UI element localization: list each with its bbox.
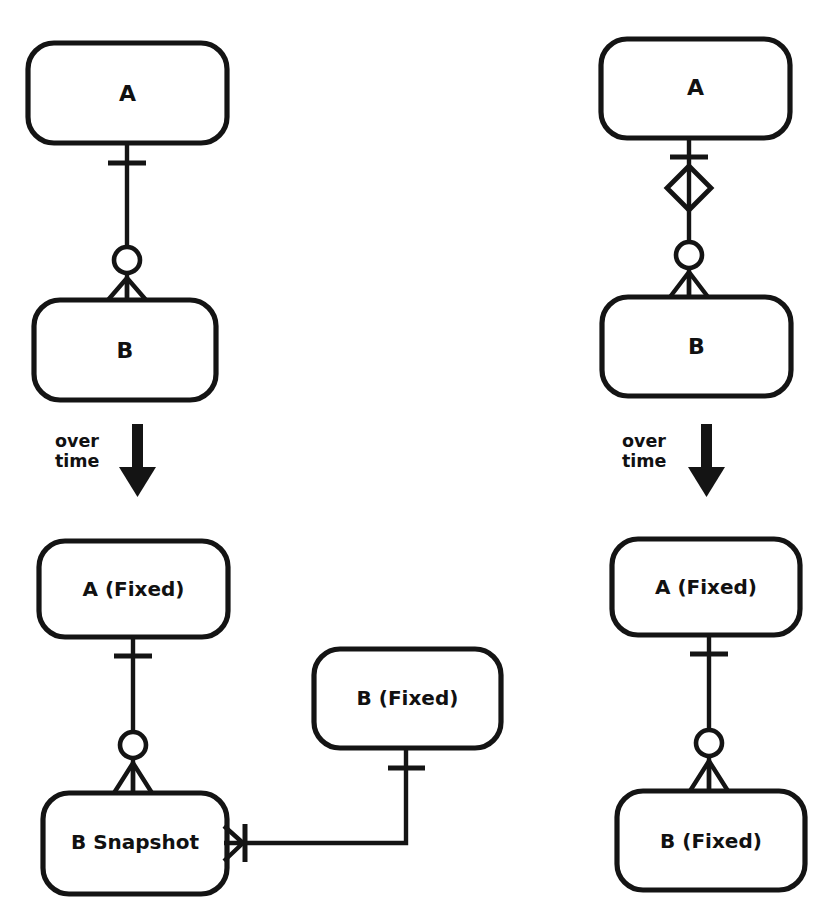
entity-right-after-a-fixed[interactable]: A (Fixed) (612, 539, 800, 635)
cardinality-zero-ring-icon (120, 732, 146, 758)
relationship-right-after-a-b[interactable] (690, 635, 728, 791)
crow-foot-icon (114, 763, 152, 793)
entity-left-after-a-fixed[interactable]: A (Fixed) (39, 541, 228, 637)
entity-label: B (117, 338, 134, 363)
right-after-group: A (Fixed) B (Fixed) (612, 539, 805, 890)
relationship-line-elbow (240, 748, 406, 843)
entity-left-after-b-snapshot[interactable]: B Snapshot (43, 793, 227, 894)
crow-foot-icon (224, 826, 243, 861)
entity-label: A (Fixed) (82, 577, 184, 601)
entity-label: A (Fixed) (655, 575, 757, 599)
entity-left-before-a[interactable]: A (28, 43, 227, 143)
over-time-label-line2: time (622, 451, 667, 471)
diagram-canvas: A B over time A (Fixed) (0, 0, 826, 914)
entity-right-after-b-fixed[interactable]: B (Fixed) (617, 791, 805, 890)
right-before-group: A B (601, 39, 791, 396)
cardinality-zero-ring-icon (676, 242, 702, 268)
entity-right-before-b[interactable]: B (602, 297, 791, 396)
entity-label: A (119, 81, 136, 106)
down-arrow-icon (119, 424, 156, 497)
relationship-left-before-a-b[interactable] (108, 143, 146, 300)
over-time-label-line2: time (55, 451, 100, 471)
er-diagram: A B over time A (Fixed) (0, 0, 826, 914)
entity-label: A (687, 75, 704, 100)
crow-foot-icon (670, 272, 708, 297)
cardinality-zero-ring-icon (114, 247, 140, 273)
cardinality-zero-ring-icon (696, 730, 722, 756)
relationship-right-before-a-b[interactable] (667, 138, 711, 297)
entity-label: B (Fixed) (357, 686, 459, 710)
entity-left-after-b-fixed[interactable]: B (Fixed) (314, 649, 501, 748)
over-time-label-line1: over (622, 431, 666, 451)
right-over-time-transition: over time (622, 424, 725, 497)
entity-right-before-a[interactable]: A (601, 39, 790, 138)
crow-foot-icon (690, 761, 728, 791)
relationship-left-after-bfixed-snapshot[interactable] (224, 748, 425, 862)
left-over-time-transition: over time (55, 424, 156, 497)
entity-label: B (688, 334, 705, 359)
entity-label: B Snapshot (71, 830, 200, 854)
entity-label: B (Fixed) (660, 829, 762, 853)
down-arrow-icon (688, 424, 725, 497)
left-before-group: A B (28, 43, 227, 400)
relationship-left-after-a-snapshot[interactable] (114, 637, 152, 793)
entity-left-before-b[interactable]: B (34, 300, 216, 400)
crow-foot-icon (108, 278, 146, 300)
over-time-label-line1: over (55, 431, 99, 451)
left-after-group: A (Fixed) B Snapshot B (Fixed) (39, 541, 501, 894)
